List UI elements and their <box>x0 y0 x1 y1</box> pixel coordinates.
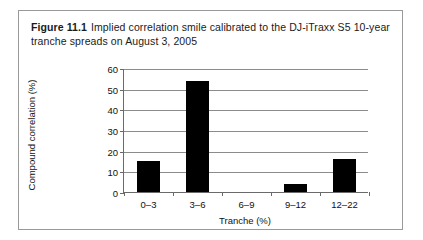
y-axis-tick <box>120 90 124 91</box>
y-axis-tick-label: 0 <box>113 188 118 199</box>
y-axis-tick <box>120 131 124 132</box>
figure-number: Figure 11.1 <box>31 21 87 33</box>
y-axis-title: Compound correlation (%) <box>26 73 40 197</box>
figure-frame: Figure 11.1Implied correlation smile cal… <box>18 10 403 230</box>
gridline <box>124 152 368 153</box>
y-axis-tick <box>120 110 124 111</box>
y-axis-tick-label: 10 <box>107 167 118 178</box>
x-axis-tick <box>173 192 174 196</box>
x-axis-tick <box>369 192 370 196</box>
figure-caption: Figure 11.1Implied correlation smile cal… <box>31 20 391 48</box>
y-axis-tick-label: 40 <box>107 105 118 116</box>
y-axis-tick-label: 50 <box>107 84 118 95</box>
bar <box>186 81 209 192</box>
x-axis-tick <box>222 192 223 196</box>
bar <box>137 161 160 192</box>
bar-chart: Compound correlation (%) 01020304050600–… <box>57 63 393 223</box>
x-axis-tick-label: 6–9 <box>239 199 255 210</box>
gridline <box>124 69 368 70</box>
y-axis-tick <box>120 152 124 153</box>
y-axis-tick-label: 20 <box>107 146 118 157</box>
y-axis-tick-label: 30 <box>107 126 118 137</box>
gridline <box>124 172 368 173</box>
y-axis-tick <box>120 172 124 173</box>
x-axis-tick <box>271 192 272 196</box>
y-axis-tick-label: 60 <box>107 64 118 75</box>
x-axis-tick-label: 3–6 <box>190 199 206 210</box>
x-axis-tick <box>320 192 321 196</box>
bar <box>284 184 307 192</box>
plot-area: 01020304050600–33–66–99–1212–22 <box>123 69 368 193</box>
x-axis-tick-label: 0–3 <box>141 199 157 210</box>
gridline <box>124 110 368 111</box>
bar <box>333 159 356 192</box>
gridline <box>124 90 368 91</box>
x-axis-tick-label: 12–22 <box>331 199 357 210</box>
x-axis-tick-label: 9–12 <box>285 199 306 210</box>
x-axis-title: Tranche (%) <box>123 215 367 226</box>
x-axis-tick <box>124 192 125 196</box>
gridline <box>124 131 368 132</box>
y-axis-tick <box>120 69 124 70</box>
